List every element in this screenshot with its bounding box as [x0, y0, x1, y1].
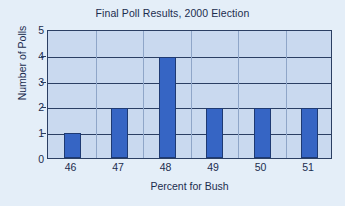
- x-tick-label-51: 51: [288, 162, 328, 173]
- bar-48[interactable]: [159, 57, 176, 158]
- plot-area: [47, 30, 332, 159]
- bar-49[interactable]: [206, 108, 223, 158]
- y-tick-label-5: 5: [22, 25, 44, 36]
- gridline-x-2: [143, 31, 144, 158]
- gridline-x-4: [238, 31, 239, 158]
- y-axis-tick-labels: 5 4 3 2 1 0: [10, 0, 44, 206]
- bar-46[interactable]: [64, 133, 81, 158]
- gridline-x-1: [96, 31, 97, 158]
- y-tick-mark-4: [41, 56, 46, 57]
- gridline-y-4: [48, 57, 331, 58]
- bar-47[interactable]: [111, 108, 128, 158]
- x-axis-title: Percent for Bush: [47, 180, 332, 192]
- gridline-y-3: [48, 83, 331, 84]
- chart-figure: Final Poll Results, 2000 Election Number…: [0, 0, 345, 206]
- gridline-y-1: [48, 134, 331, 135]
- x-tick-label-50: 50: [241, 162, 281, 173]
- gridline-x-5: [286, 31, 287, 158]
- y-tick-mark-3: [41, 82, 46, 83]
- gridline-y-2: [48, 108, 331, 109]
- bar-50[interactable]: [254, 108, 271, 158]
- gridline-x-3: [191, 31, 192, 158]
- bar-51[interactable]: [301, 108, 318, 158]
- x-tick-label-49: 49: [193, 162, 233, 173]
- x-tick-label-48: 48: [146, 162, 186, 173]
- chart-title: Final Poll Results, 2000 Election: [0, 7, 345, 19]
- y-tick-mark-1: [41, 133, 46, 134]
- y-tick-mark-2: [41, 107, 46, 108]
- x-tick-label-46: 46: [51, 162, 91, 173]
- y-tick-label-0: 0: [22, 154, 44, 165]
- x-tick-label-47: 47: [98, 162, 138, 173]
